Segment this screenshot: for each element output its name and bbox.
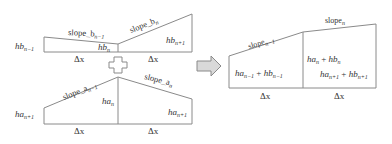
ha-right-label: han+1 bbox=[168, 107, 187, 118]
ha-mid-label: han bbox=[102, 96, 114, 107]
combined-figure: slopen−1 slopen han−1 + hbn−1 han + hbn … bbox=[229, 16, 376, 101]
combined-dx-left: Δx bbox=[260, 91, 271, 101]
hb-dx-right: Δx bbox=[148, 54, 159, 64]
combined-sum-right: han+1 + hbn+1 bbox=[320, 69, 368, 80]
ha-figure: han+1 han han+1 slope_an−1 slope_an Δx Δ… bbox=[15, 71, 192, 136]
ha-left-label: han+1 bbox=[15, 109, 34, 120]
right-arrow-icon bbox=[197, 56, 221, 76]
plus-icon bbox=[109, 57, 127, 73]
ha-dx-left: Δx bbox=[74, 126, 85, 136]
hb-dx-left: Δx bbox=[74, 54, 85, 64]
combined-sum-mid: han + hbn bbox=[307, 54, 341, 65]
combined-slope-left-label: slopen−1 bbox=[247, 34, 276, 51]
hb-slope-left-label: slope_bn−1 bbox=[68, 27, 105, 40]
hb-figure: hbn−1 hbn hbn+1 slope_bn−1 slope_bn Δx Δ… bbox=[15, 14, 192, 64]
hb-left-label: hbn−1 bbox=[15, 41, 34, 52]
combined-sum-left: han−1 + hbn−1 bbox=[235, 68, 283, 79]
ha-slope-left-label: slope_an−1 bbox=[61, 79, 99, 103]
hb-slope-right-label: slope_bn bbox=[128, 15, 159, 36]
combined-dx-right: Δx bbox=[334, 91, 345, 101]
diagram-canvas: hbn−1 hbn hbn+1 slope_bn−1 slope_bn Δx Δ… bbox=[0, 0, 392, 144]
combined-slope-right-label: slopen bbox=[325, 16, 345, 26]
hb-mid-label: hbn bbox=[98, 42, 110, 53]
ha-dx-right: Δx bbox=[148, 126, 159, 136]
hb-right-label: hbn+1 bbox=[166, 35, 185, 46]
